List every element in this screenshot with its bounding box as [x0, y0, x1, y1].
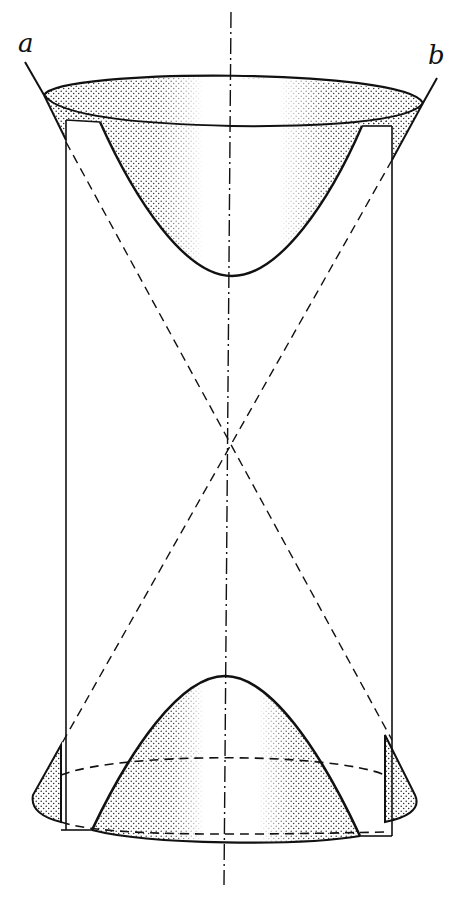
label-b: b	[428, 40, 445, 70]
generator-line-a	[25, 62, 44, 95]
upper-sheet	[44, 76, 423, 276]
label-a: a	[18, 28, 34, 58]
hyperboloid-diagram	[0, 0, 453, 908]
generator-line-b	[423, 78, 437, 103]
lower-sheet	[33, 676, 417, 843]
